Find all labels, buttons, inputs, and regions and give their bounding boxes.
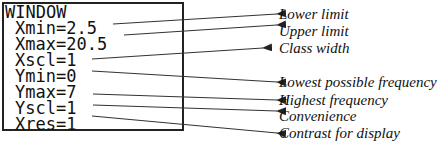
arrow-convenience [93, 105, 277, 111]
label-lowest-possible-frequency: Lowest possible frequency [279, 74, 437, 90]
arrow-lowest-frequency [92, 71, 277, 82]
arrow-lower-limit [113, 14, 277, 24]
label-convenience: Convenience [279, 108, 356, 124]
arrow-contrast [92, 116, 277, 133]
annotation-arrows [0, 0, 437, 144]
arrow-upper-limit [124, 25, 277, 35]
label-class-width: Class width [279, 40, 349, 56]
label-lower-limit: Lower limit [279, 6, 349, 22]
label-highest-frequency: Highest frequency [279, 92, 388, 108]
label-upper-limit: Upper limit [279, 23, 349, 39]
label-contrast-for-display: Contrast for display [279, 125, 400, 141]
arrow-highest-frequency [93, 94, 277, 100]
arrow-class-width [92, 48, 263, 59]
